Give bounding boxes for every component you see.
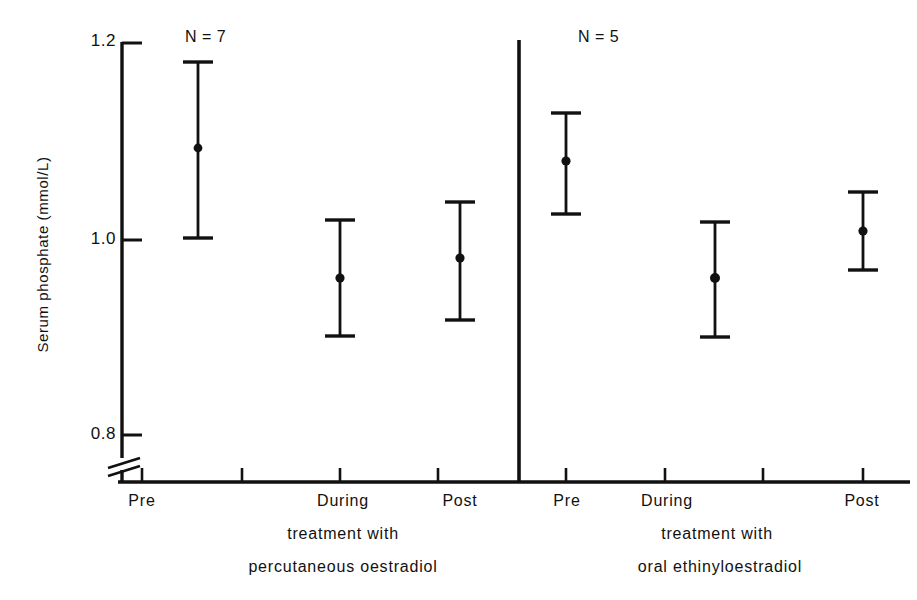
datapoint-right-during xyxy=(710,273,720,283)
figure-container: Serum phosphate (mmol/L) 1.2 1.0 0.8 N =… xyxy=(0,0,917,600)
datapoint-right-post xyxy=(858,226,867,235)
datapoint-left-pre xyxy=(194,144,203,153)
datapoint-left-post xyxy=(455,253,464,262)
datapoint-left-during xyxy=(335,273,344,282)
plot-canvas xyxy=(0,0,917,600)
datapoint-right-pre xyxy=(561,156,570,165)
